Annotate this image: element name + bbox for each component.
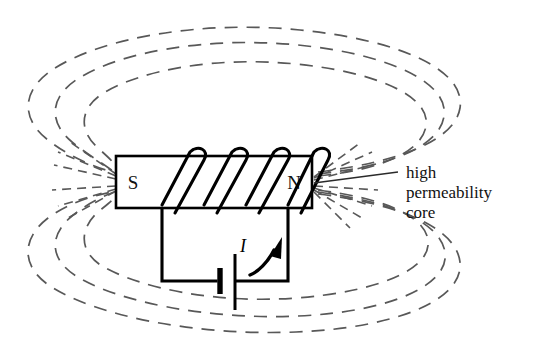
flux-ray-s-6	[68, 191, 116, 218]
field-line-lower-middle	[55, 192, 445, 317]
circuit-loop-wire	[162, 205, 216, 281]
south-pole-flux-rays	[52, 142, 116, 218]
electromagnet-figure: I S N high permeability core	[0, 0, 544, 354]
south-pole-label: S	[128, 172, 139, 193]
core-group: S N	[116, 156, 312, 208]
field-line-upper-middle	[55, 42, 444, 174]
current-label: I	[239, 236, 247, 256]
lower-field-lines	[28, 190, 460, 333]
field-line-lower-outer	[28, 192, 460, 333]
core-rectangle	[116, 156, 312, 208]
annotation-line-2: permeability	[406, 183, 492, 202]
annotation-line-3: core	[406, 203, 435, 222]
figure-canvas: I S N high permeability core	[0, 0, 544, 354]
flux-ray-n-4	[314, 186, 378, 190]
upper-field-lines	[28, 27, 460, 176]
current-arrowhead	[270, 237, 282, 259]
flux-ray-s-4	[52, 186, 116, 190]
flux-ray-n-6	[314, 190, 362, 218]
north-pole-flux-rays	[314, 143, 378, 228]
current-direction-arrow	[250, 250, 274, 275]
circuit-group: I	[162, 205, 288, 310]
annotation-line-1: high	[406, 163, 437, 182]
